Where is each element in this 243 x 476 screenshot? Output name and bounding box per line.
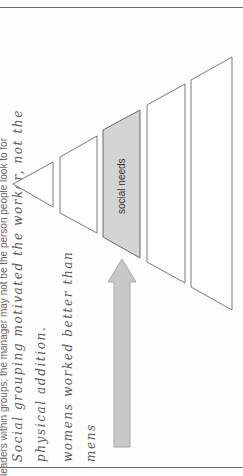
social-needs-label: social needs — [116, 158, 127, 214]
pyramid-level-2 — [60, 136, 97, 233]
pyramid-level-4 — [147, 84, 185, 283]
pyramid-level-1 — [13, 162, 53, 207]
arrow-up-icon — [108, 259, 136, 447]
pyramid-level-5 — [191, 57, 232, 310]
pyramid-diagram: social needs — [0, 0, 243, 476]
scanned-page: leaders within groups; the manager may n… — [0, 0, 243, 476]
